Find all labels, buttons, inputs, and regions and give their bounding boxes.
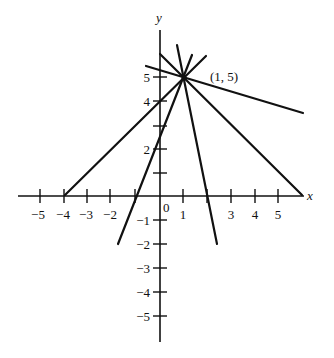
point-1-5 — [182, 76, 187, 81]
svg-text:5: 5 — [275, 207, 282, 222]
svg-text:3: 3 — [228, 207, 235, 222]
y-axis-label: y — [154, 10, 162, 25]
svg-text:4: 4 — [252, 207, 259, 222]
svg-text:−2: −2 — [103, 207, 117, 222]
svg-text:−5: −5 — [31, 207, 45, 222]
svg-text:−3: −3 — [136, 261, 150, 276]
svg-text:−4: −4 — [56, 207, 70, 222]
x-axis-label: x — [306, 188, 313, 203]
svg-text:4: 4 — [144, 94, 151, 109]
svg-text:−3: −3 — [79, 207, 93, 222]
svg-text:−4: −4 — [136, 285, 150, 300]
svg-text:1: 1 — [180, 207, 187, 222]
point-annotation: (1, 5) — [210, 69, 238, 84]
svg-text:2: 2 — [144, 142, 151, 157]
y-tick-labels: 5 4 2 −1 −2 −3 −4 −5 — [136, 70, 150, 324]
svg-text:−5: −5 — [136, 309, 150, 324]
origin-label: 0 — [163, 200, 170, 215]
svg-text:−2: −2 — [136, 237, 150, 252]
coordinate-plane: x y −5 −4 −3 −2 1 3 4 5 0 5 4 2 −1 −2 −3… — [0, 0, 334, 358]
svg-text:5: 5 — [144, 70, 151, 85]
svg-text:−1: −1 — [136, 213, 150, 228]
